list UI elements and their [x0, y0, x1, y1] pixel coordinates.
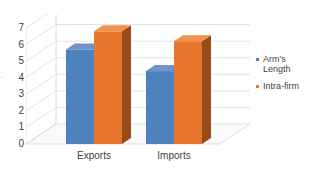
- plot-area: Exports Imports: [26, 14, 250, 160]
- gridline-depth-3: [26, 74, 56, 94]
- y-tick-6: 6: [10, 40, 24, 50]
- gridline-depth-6: [26, 25, 56, 45]
- gridline-depth-5: [26, 41, 56, 61]
- y-tick-0: 0: [10, 139, 24, 149]
- column-front-face: [94, 31, 122, 144]
- legend-marker-icon-arms-length: [256, 58, 259, 61]
- gridline-depth-1: [26, 107, 56, 127]
- plot-svg: [26, 14, 250, 160]
- legend-label-arms-length: Arm's Length: [263, 54, 291, 74]
- column-imports-intra-firm[interactable]: [174, 35, 211, 144]
- column-front-face: [174, 41, 202, 144]
- y-axis-title-clipped: -: [0, 72, 7, 102]
- y-tick-2: 2: [10, 106, 24, 116]
- y-tick-1: 1: [10, 122, 24, 132]
- column-front-face: [66, 50, 94, 144]
- column-exports-intra-firm[interactable]: [94, 25, 131, 144]
- y-tick-5: 5: [10, 56, 24, 66]
- chart-container: - 7 6 5 4 3 2 1 0 Exports Imports Arm's …: [0, 0, 314, 174]
- y-axis-tick-labels: 7 6 5 4 3 2 1 0: [8, 14, 24, 160]
- legend-label-intra-firm: Intra-firm: [263, 81, 299, 91]
- y-tick-3: 3: [10, 89, 24, 99]
- column-side-face: [202, 35, 211, 144]
- y-tick-4: 4: [10, 73, 24, 83]
- chart-legend: Arm's Length Intra-firm: [256, 54, 314, 98]
- column-side-face: [122, 25, 131, 144]
- legend-marker-icon-intra-firm: [256, 85, 259, 88]
- y-axis-title-text: -: [0, 73, 2, 80]
- legend-item-arms-length[interactable]: Arm's Length: [256, 54, 314, 74]
- grid-and-floor: [26, 14, 250, 144]
- x-label-imports: Imports: [126, 150, 222, 161]
- floor-plane: [26, 124, 250, 144]
- gridline-depth-4: [26, 58, 56, 78]
- y-tick-7: 7: [10, 23, 24, 33]
- gridline-depth-2: [26, 91, 56, 111]
- gridline-depth-7: [26, 14, 56, 28]
- column-front-face: [146, 71, 174, 144]
- legend-item-intra-firm[interactable]: Intra-firm: [256, 81, 314, 91]
